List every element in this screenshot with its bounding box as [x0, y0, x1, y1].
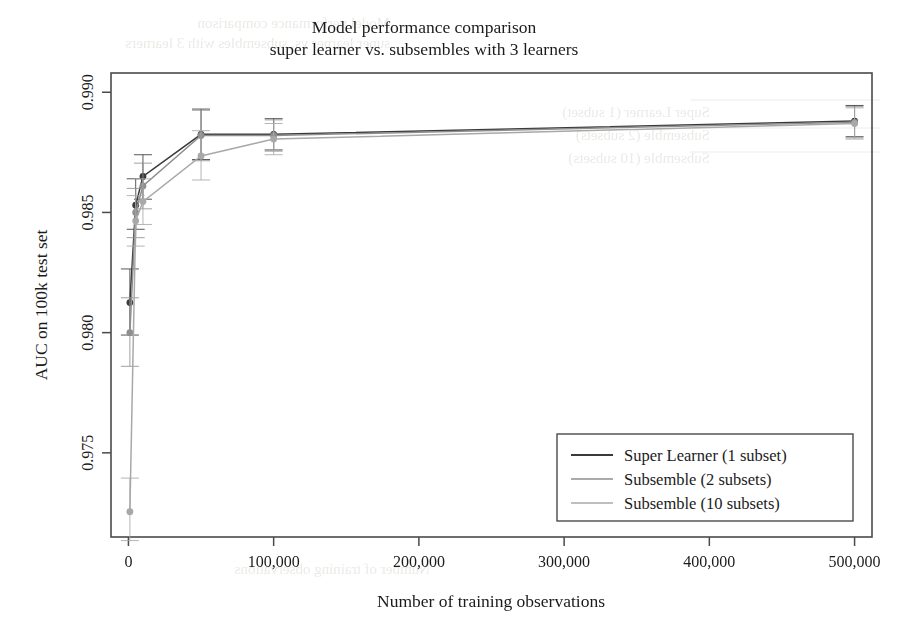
figure-container: Model performance comparison super learn… [0, 0, 908, 635]
x-axis-title: Number of training observations [377, 591, 605, 611]
series-super-learner-1-subset [121, 105, 864, 335]
series-line [130, 122, 855, 332]
data-point [132, 217, 139, 224]
x-tick-label: 500,000 [829, 553, 881, 570]
y-tick-label: 0.990 [79, 74, 96, 110]
x-tick-label: 200,000 [393, 553, 445, 570]
y-axis-title: AUC on 100k test set [31, 230, 51, 381]
data-point [126, 329, 133, 336]
series-line [130, 121, 855, 303]
legend-label-0: Super Learner (1 subset) [624, 446, 787, 465]
data-point [270, 136, 277, 143]
data-point [140, 198, 147, 205]
chart-svg: Model performance comparison super learn… [0, 0, 908, 635]
x-tick-label: 400,000 [683, 553, 735, 570]
ghost-legend-line1: Super Learner (1 subset) [562, 104, 710, 121]
y-tick-label: 0.975 [79, 435, 96, 471]
data-point [198, 153, 205, 160]
x-tick-label: 300,000 [538, 553, 590, 570]
y-tick-label: 0.985 [79, 194, 96, 230]
chart-title-line-2: super learner vs. subsembles with 3 lear… [270, 39, 579, 59]
legend-label-1: Subsemble (2 subsets) [624, 470, 772, 489]
ghost-legend-line3: Subsemble (10 subsets) [568, 150, 710, 167]
data-point [126, 508, 133, 515]
x-tick-label: 0 [124, 553, 132, 570]
series-subsemble-2-subsets [121, 107, 864, 367]
x-tick-label: 100,000 [248, 553, 300, 570]
data-point [851, 120, 858, 127]
y-tick-label: 0.980 [79, 315, 96, 351]
legend[interactable]: Super Learner (1 subset)Subsemble (2 sub… [557, 434, 853, 521]
legend-label-2: Subsemble (10 subsets) [624, 494, 780, 513]
chart-title-line-1: Model performance comparison [312, 17, 537, 37]
